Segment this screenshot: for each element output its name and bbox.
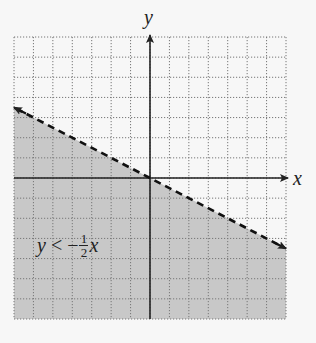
ineq-variable: x [89,234,98,257]
ineq-negative: − [67,234,78,257]
y-axis-label: y [144,6,153,29]
inequality-label: y < − 1 2 x [37,232,98,259]
ineq-lhs: y [37,234,46,257]
coordinate-plane [0,0,316,343]
fraction: 1 2 [79,232,88,259]
fraction-denominator: 2 [81,246,88,259]
fraction-numerator: 1 [81,232,88,245]
ineq-operator: < [51,234,62,257]
x-axis-label: x [293,167,302,190]
